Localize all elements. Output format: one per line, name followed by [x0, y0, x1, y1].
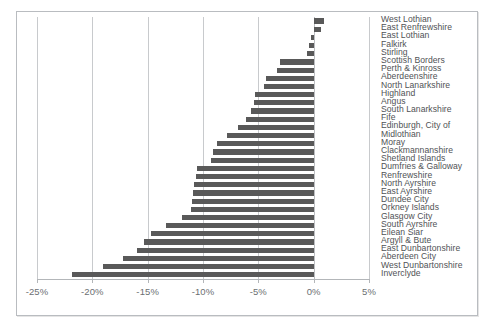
bar-row: [37, 173, 369, 181]
bar-row: [37, 156, 369, 164]
bar-row: [37, 271, 369, 279]
bar-row: [37, 99, 369, 107]
bar: [254, 100, 314, 105]
bar-row: [37, 58, 369, 66]
bar: [151, 231, 314, 236]
bar-row: [37, 123, 369, 131]
gridline-5: [369, 17, 370, 279]
bar-row: [37, 17, 369, 25]
bar: [211, 158, 314, 163]
bar: [123, 256, 313, 261]
bar: [246, 117, 314, 122]
bar: [193, 190, 314, 195]
bar: [238, 125, 313, 130]
bar: [227, 133, 313, 138]
bar-row: [37, 25, 369, 33]
tick-mark: [37, 279, 38, 283]
bar: [72, 272, 313, 277]
bar-row: [37, 83, 369, 91]
bar-row: [37, 230, 369, 238]
bar: [103, 264, 313, 269]
category-axis-labels: West LothianEast RenfrewshireEast Lothia…: [381, 15, 495, 281]
bar-row: [37, 115, 369, 123]
bar: [137, 248, 314, 253]
bar-row: [37, 74, 369, 82]
tick-mark: [92, 279, 93, 283]
x-tick-label: -15%: [136, 286, 159, 297]
tick-mark: [369, 279, 370, 283]
bar: [213, 149, 314, 154]
bar: [280, 59, 313, 64]
bar-row: [37, 254, 369, 262]
bar-row: [37, 66, 369, 74]
bar-row: [37, 189, 369, 197]
bar: [192, 199, 314, 204]
bar-row: [37, 107, 369, 115]
tick-mark: [314, 279, 315, 283]
bar: [217, 141, 313, 146]
bar: [264, 84, 314, 89]
bar-row: [37, 197, 369, 205]
bar: [314, 27, 322, 32]
bar-row: [37, 33, 369, 41]
bar-row: [37, 132, 369, 140]
bar-row: [37, 148, 369, 156]
x-tick-label: 0%: [307, 286, 321, 297]
bar-row: [37, 214, 369, 222]
x-tick-label: -25%: [26, 286, 49, 297]
bar: [314, 18, 324, 23]
x-tick-label: -20%: [81, 286, 104, 297]
bar: [251, 108, 314, 113]
bar-row: [37, 222, 369, 230]
bar: [277, 68, 314, 73]
bar-row: [37, 42, 369, 50]
bar: [266, 76, 314, 81]
bar-row: [37, 263, 369, 271]
bar-row: [37, 164, 369, 172]
bar: [191, 207, 314, 212]
bar-row: [37, 246, 369, 254]
bar-row: [37, 91, 369, 99]
bar-row: [37, 238, 369, 246]
bar: [166, 223, 313, 228]
bar-row: [37, 181, 369, 189]
bar: [144, 239, 313, 244]
bar: [309, 43, 313, 48]
x-tick-label: 5%: [362, 286, 376, 297]
x-tick-label: -5%: [250, 286, 267, 297]
tick-mark: [258, 279, 259, 283]
bar-series: [37, 17, 369, 279]
category-label: Inverclyde: [381, 269, 421, 277]
bar: [307, 51, 314, 56]
bar: [255, 92, 314, 97]
bar-row: [37, 140, 369, 148]
bar: [197, 166, 313, 171]
tick-mark: [148, 279, 149, 283]
chart-frame: -25%-20%-15%-10%-5%0%5% West LothianEast…: [16, 11, 478, 316]
bar: [194, 182, 314, 187]
plot-area: [37, 17, 369, 279]
tick-mark: [203, 279, 204, 283]
bar: [196, 174, 313, 179]
bar: [182, 215, 314, 220]
bar-row: [37, 50, 369, 58]
x-axis-tick-labels: -25%-20%-15%-10%-5%0%5%: [17, 286, 477, 302]
bar-row: [37, 205, 369, 213]
bar: [311, 35, 313, 40]
x-tick-label: -10%: [192, 286, 215, 297]
